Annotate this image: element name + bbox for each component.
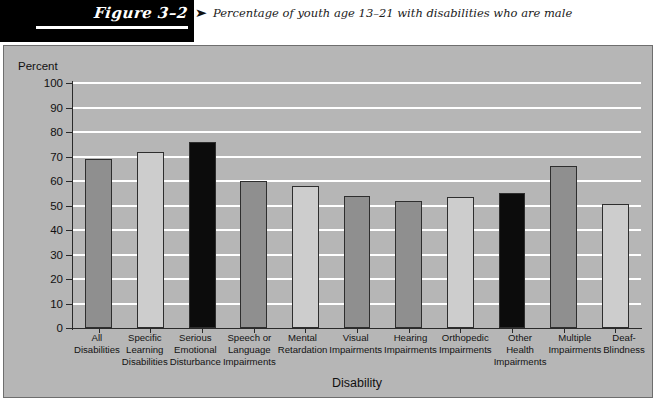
bar-slot xyxy=(486,83,538,328)
caption-arrow-icon: ➤ xyxy=(195,6,208,21)
y-tick-label: 80 xyxy=(50,126,63,138)
x-tick-label-line: Language xyxy=(223,344,276,356)
figure-page: Figure 3–2 ➤ Percentage of youth age 13–… xyxy=(0,0,658,410)
x-tick-label: OtherHealthImpairments xyxy=(493,332,548,368)
x-tick-label-line: Disabilities xyxy=(74,344,120,356)
bar-slot xyxy=(589,83,641,328)
x-tick-label: SeriousEmotionalDisturbance xyxy=(169,332,222,368)
bar xyxy=(602,204,629,328)
x-tick-label-line: Other xyxy=(494,332,547,344)
y-axis-title: Percent xyxy=(18,60,58,72)
bar xyxy=(189,142,216,328)
x-tick-label: MentalRetardation xyxy=(277,332,329,368)
x-tick-label-line: Learning xyxy=(122,344,168,356)
y-tick-label: 40 xyxy=(50,224,63,236)
x-tick-label-line: Multiple xyxy=(548,332,601,344)
x-tick-label-line: Deaf- xyxy=(603,332,645,344)
bar-slot xyxy=(176,83,228,328)
caption-text: Percentage of youth age 13–21 with disab… xyxy=(213,6,572,21)
x-tick-label-line: Orthopedic xyxy=(439,332,492,344)
x-tick-label-line: Blindness xyxy=(603,344,645,356)
figure-number-label: Figure 3–2 xyxy=(57,4,189,22)
x-tick-label: HearingImpairments xyxy=(383,332,438,368)
y-tick-label: 70 xyxy=(50,151,63,163)
x-axis-title: Disability xyxy=(73,376,641,390)
y-tick-label: 0 xyxy=(57,322,63,334)
x-tick-label-line: Hearing xyxy=(384,332,437,344)
chart-panel: Percent 1009080706050403020100 AllDisabi… xyxy=(3,45,653,398)
y-tick-label: 10 xyxy=(50,298,63,310)
x-tick-label: SpecificLearningDisabilities xyxy=(121,332,169,368)
bar xyxy=(344,196,371,328)
bar-slot xyxy=(125,83,177,328)
bar-slot xyxy=(331,83,383,328)
bar-series xyxy=(73,83,641,328)
x-tick-label-line: Disturbance xyxy=(170,356,221,368)
x-tick-label-line: Emotional xyxy=(170,344,221,356)
y-tick-label: 100 xyxy=(44,77,63,89)
x-tick-label: Deaf-Blindness xyxy=(602,332,646,368)
bar-slot xyxy=(383,83,435,328)
bar xyxy=(85,159,112,328)
bar xyxy=(240,181,267,328)
x-tick-label-line: Visual xyxy=(329,332,382,344)
x-tick-label-line: Speech or xyxy=(223,332,276,344)
bar-slot xyxy=(434,83,486,328)
x-tick-label-line: Retardation xyxy=(278,344,328,356)
x-tick-label-line: Specific xyxy=(122,332,168,344)
x-tick-label-line: Serious xyxy=(170,332,221,344)
bar-slot xyxy=(228,83,280,328)
x-tick-label-line: Impairments xyxy=(223,356,276,368)
x-tick-label-line: Impairments xyxy=(548,344,601,356)
x-tick-label-line: Impairments xyxy=(439,344,492,356)
bar xyxy=(447,197,474,328)
bar xyxy=(137,152,164,328)
x-tick-label-line: Impairments xyxy=(494,356,547,368)
x-tick-label: AllDisabilities xyxy=(73,332,121,368)
x-tick-label-line: All xyxy=(74,332,120,344)
bar xyxy=(550,166,577,328)
bar xyxy=(499,193,526,328)
y-tick-label: 30 xyxy=(50,249,63,261)
figure-header-rule xyxy=(36,26,188,29)
y-tick-label: 90 xyxy=(50,102,63,114)
bar xyxy=(292,186,319,328)
x-tick-label-line: Mental xyxy=(278,332,328,344)
plot-area: 1009080706050403020100 xyxy=(73,83,641,328)
bar xyxy=(395,201,422,328)
y-tick-label: 50 xyxy=(50,200,63,212)
x-tick-label: VisualImpairments xyxy=(328,332,383,368)
bar-slot xyxy=(538,83,590,328)
x-tick-label: MultipleImpairments xyxy=(547,332,602,368)
figure-header: Figure 3–2 ➤ Percentage of youth age 13–… xyxy=(0,0,658,42)
figure-caption: ➤ Percentage of youth age 13–21 with dis… xyxy=(196,6,651,30)
x-tick-label-line: Health xyxy=(494,344,547,356)
x-axis-tick-labels: AllDisabilitiesSpecificLearningDisabilit… xyxy=(73,332,641,368)
x-tick-label-line: Impairments xyxy=(329,344,382,356)
bar-slot xyxy=(73,83,125,328)
x-tick-label-line: Impairments xyxy=(384,344,437,356)
y-tick-label: 20 xyxy=(50,273,63,285)
x-tick-label: OrthopedicImpairments xyxy=(438,332,493,368)
y-tick-label: 60 xyxy=(50,175,63,187)
x-tick-label: Speech orLanguageImpairments xyxy=(222,332,277,368)
x-tick-label-line: Disabilities xyxy=(122,356,168,368)
bar-slot xyxy=(280,83,332,328)
